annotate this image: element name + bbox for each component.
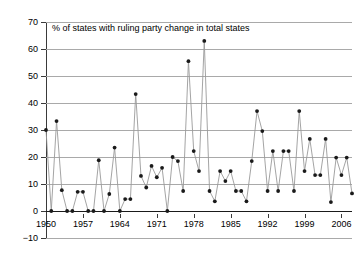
data-point (197, 169, 201, 173)
data-point (144, 186, 148, 190)
y-axis-label: 50 (28, 72, 38, 81)
data-point (113, 146, 117, 150)
data-point (218, 169, 222, 173)
data-point (255, 109, 259, 113)
data-point (271, 149, 275, 153)
data-point (107, 192, 111, 196)
chart-title: % of states with ruling party change in … (52, 23, 250, 34)
y-axis-label: 0 (33, 207, 38, 216)
x-axis-label: 1999 (295, 220, 315, 229)
chart-container: % of states with ruling party change in … (0, 0, 361, 259)
data-point (208, 189, 212, 193)
y-axis-tick (41, 130, 46, 131)
x-axis-tick (46, 214, 47, 218)
y-axis-label: 20 (28, 153, 38, 162)
data-point (181, 189, 185, 193)
data-point (55, 119, 59, 123)
y-axis-tick (41, 184, 46, 185)
y-axis-tick (41, 103, 46, 104)
x-axis-tick (157, 214, 158, 218)
data-point (350, 192, 354, 196)
y-axis-label: 40 (28, 99, 38, 108)
gridline (46, 49, 352, 50)
data-point (160, 166, 164, 170)
x-axis-baseline (46, 238, 352, 239)
data-point (97, 158, 101, 162)
x-axis-tick (194, 214, 195, 218)
data-point (245, 199, 249, 203)
data-point (176, 159, 180, 163)
data-point (234, 189, 238, 193)
data-point (187, 59, 191, 63)
y-axis-tick (41, 49, 46, 50)
data-point (139, 174, 143, 178)
data-point (134, 92, 138, 96)
data-point (155, 175, 159, 179)
data-point (192, 149, 196, 153)
data-point (318, 173, 322, 177)
gridline (46, 184, 352, 185)
gridline (46, 157, 352, 158)
x-axis-tick (341, 214, 342, 218)
y-axis-label: 10 (28, 180, 38, 189)
y-axis-label: −10 (23, 234, 38, 243)
data-point (329, 200, 333, 204)
data-point (276, 189, 280, 193)
data-point (303, 169, 307, 173)
data-point (223, 179, 227, 183)
x-axis-label: 2006 (331, 220, 351, 229)
y-axis-tick (41, 238, 46, 239)
y-axis-tick (41, 157, 46, 158)
data-point (213, 199, 217, 203)
data-point (129, 197, 133, 201)
y-axis-label: 60 (28, 45, 38, 54)
x-axis-tick (305, 214, 306, 218)
data-point (297, 109, 301, 113)
data-point (229, 169, 233, 173)
data-point (76, 190, 80, 194)
data-point (308, 137, 312, 141)
y-axis-label: 30 (28, 126, 38, 135)
data-point (282, 149, 286, 153)
data-point (123, 197, 127, 201)
data-point (150, 164, 154, 168)
data-point (81, 190, 85, 194)
data-point (202, 39, 206, 43)
data-point (292, 189, 296, 193)
gridline (46, 130, 352, 131)
y-axis-label: 70 (28, 18, 38, 27)
x-axis-label: 1971 (147, 220, 167, 229)
x-axis-label: 1964 (110, 220, 130, 229)
x-axis-tick (83, 214, 84, 218)
data-point (266, 189, 270, 193)
gridline (46, 211, 352, 212)
y-axis-tick (41, 211, 46, 212)
y-axis-tick (41, 22, 46, 23)
data-point (313, 173, 317, 177)
gridline (46, 76, 352, 77)
y-axis-tick (41, 76, 46, 77)
x-axis-label: 1978 (184, 220, 204, 229)
data-point (250, 159, 254, 163)
x-axis-label: 1985 (221, 220, 241, 229)
x-axis-label: 1950 (36, 220, 56, 229)
data-point (239, 189, 243, 193)
data-point (287, 149, 291, 153)
data-point (340, 173, 344, 177)
gridline (46, 22, 352, 23)
data-point (60, 188, 64, 192)
x-axis-tick (231, 214, 232, 218)
x-axis-tick (268, 214, 269, 218)
x-axis-label: 1957 (73, 220, 93, 229)
x-axis-label: 1992 (258, 220, 278, 229)
x-axis-tick (120, 214, 121, 218)
gridline (46, 103, 352, 104)
data-point (324, 137, 328, 141)
